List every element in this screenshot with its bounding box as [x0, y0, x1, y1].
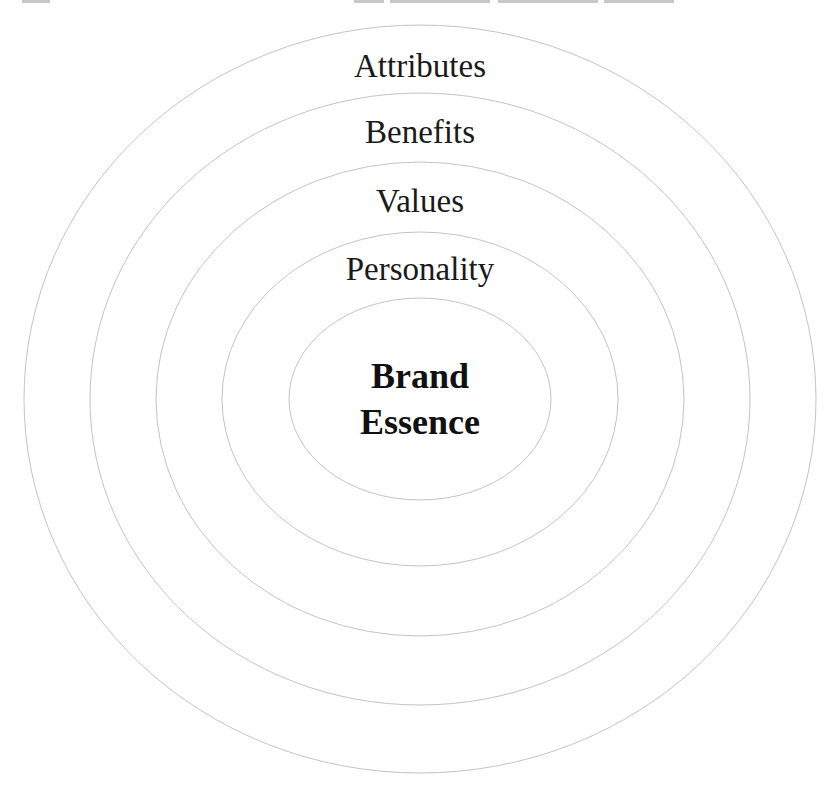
- ring-label-benefits: Benefits: [365, 114, 475, 150]
- labels-group: AttributesBenefitsValuesPersonalityBrand…: [346, 48, 495, 442]
- core-label-line2: Essence: [360, 402, 480, 442]
- ring-label-values: Values: [376, 183, 464, 219]
- ring-core: [289, 298, 551, 500]
- brand-essence-diagram: AttributesBenefitsValuesPersonalityBrand…: [0, 0, 836, 785]
- ring-label-personality: Personality: [346, 251, 495, 287]
- core-label-line1: Brand: [371, 356, 469, 396]
- ring-label-attributes: Attributes: [354, 48, 486, 84]
- ring-values: [156, 162, 684, 636]
